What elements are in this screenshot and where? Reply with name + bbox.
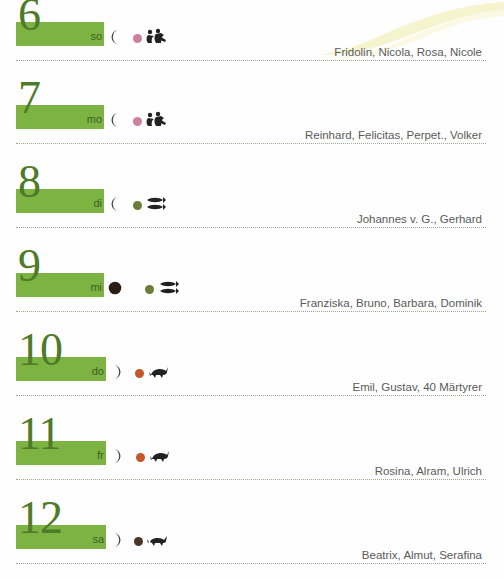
- day-row[interactable]: 9 mi Franziska, Bruno, Barbara, Dominik: [0, 251, 504, 336]
- zodiac-dot: [135, 369, 144, 378]
- day-number: 7: [18, 75, 40, 121]
- aries-ram-icon: [148, 363, 170, 381]
- saint-names: Fridolin, Nicola, Rosa, Nicole: [334, 46, 482, 58]
- saint-names: Reinhard, Felicitas, Perpet., Volker: [305, 129, 482, 141]
- waxing-crescent-moon-icon: [110, 448, 124, 464]
- waning-crescent-moon-icon: [108, 29, 122, 45]
- weekday-label: mo: [84, 113, 102, 125]
- row-separator: [16, 395, 486, 396]
- gemini-twins-icon: [145, 111, 167, 129]
- gemini-twins-icon: [145, 28, 167, 46]
- saint-names: Rosina, Alram, Ulrich: [375, 465, 482, 477]
- weekday-label: do: [86, 365, 104, 377]
- weekday-label: fr: [86, 449, 104, 461]
- day-row[interactable]: 8 di Johannes v. G., Gerhard: [0, 167, 504, 252]
- pisces-fish-icon: [158, 279, 180, 297]
- day-number: 8: [18, 159, 40, 205]
- weekday-label: di: [84, 197, 102, 209]
- row-separator: [16, 563, 486, 564]
- row-separator: [16, 60, 486, 61]
- waning-crescent-moon-icon: [108, 196, 122, 212]
- row-separator: [16, 479, 486, 480]
- zodiac-dot: [133, 117, 142, 126]
- day-number: 12: [18, 495, 62, 541]
- waning-crescent-moon-icon: [108, 112, 122, 128]
- day-number: 11: [18, 411, 60, 457]
- saint-names: Franziska, Bruno, Barbara, Dominik: [300, 297, 482, 309]
- weekday-label: sa: [86, 533, 104, 545]
- saint-names: Emil, Gustav, 40 Märtyrer: [352, 381, 482, 393]
- day-number: 6: [18, 0, 40, 38]
- zodiac-dot: [134, 537, 143, 546]
- day-row[interactable]: 6 so Fridolin, Nicola, Rosa, Nicole: [0, 0, 504, 85]
- day-number: 9: [18, 243, 40, 289]
- taurus-bull-icon: [147, 531, 169, 549]
- waxing-crescent-moon-icon: [110, 532, 124, 548]
- zodiac-dot: [145, 285, 154, 294]
- new-moon-icon: [108, 280, 122, 296]
- calendar-page: 6 so Fridolin, Nicola, Rosa, Nicole 7 mo: [0, 0, 504, 579]
- day-row[interactable]: 12 sa Beatrix, Almut, Serafina: [0, 503, 504, 579]
- day-row[interactable]: 10 do Emil, Gustav, 40 Märtyrer: [0, 335, 504, 420]
- saint-names: Johannes v. G., Gerhard: [357, 213, 482, 225]
- day-row[interactable]: 11 fr Rosina, Alram, Ulrich: [0, 419, 504, 504]
- day-number: 10: [18, 327, 62, 373]
- zodiac-dot: [133, 201, 142, 210]
- weekday-label: so: [84, 30, 102, 42]
- zodiac-dot: [133, 34, 142, 43]
- aries-ram-icon: [149, 447, 171, 465]
- day-row[interactable]: 7 mo Reinhard, Felicitas, Perpet., Volke…: [0, 83, 504, 168]
- waxing-crescent-moon-icon: [110, 364, 124, 380]
- zodiac-dot: [136, 453, 145, 462]
- row-separator: [16, 143, 486, 144]
- pisces-fish-icon: [145, 195, 167, 213]
- row-separator: [16, 227, 486, 228]
- weekday-label: mi: [84, 281, 102, 293]
- saint-names: Beatrix, Almut, Serafina: [362, 549, 482, 561]
- row-separator: [16, 311, 486, 312]
